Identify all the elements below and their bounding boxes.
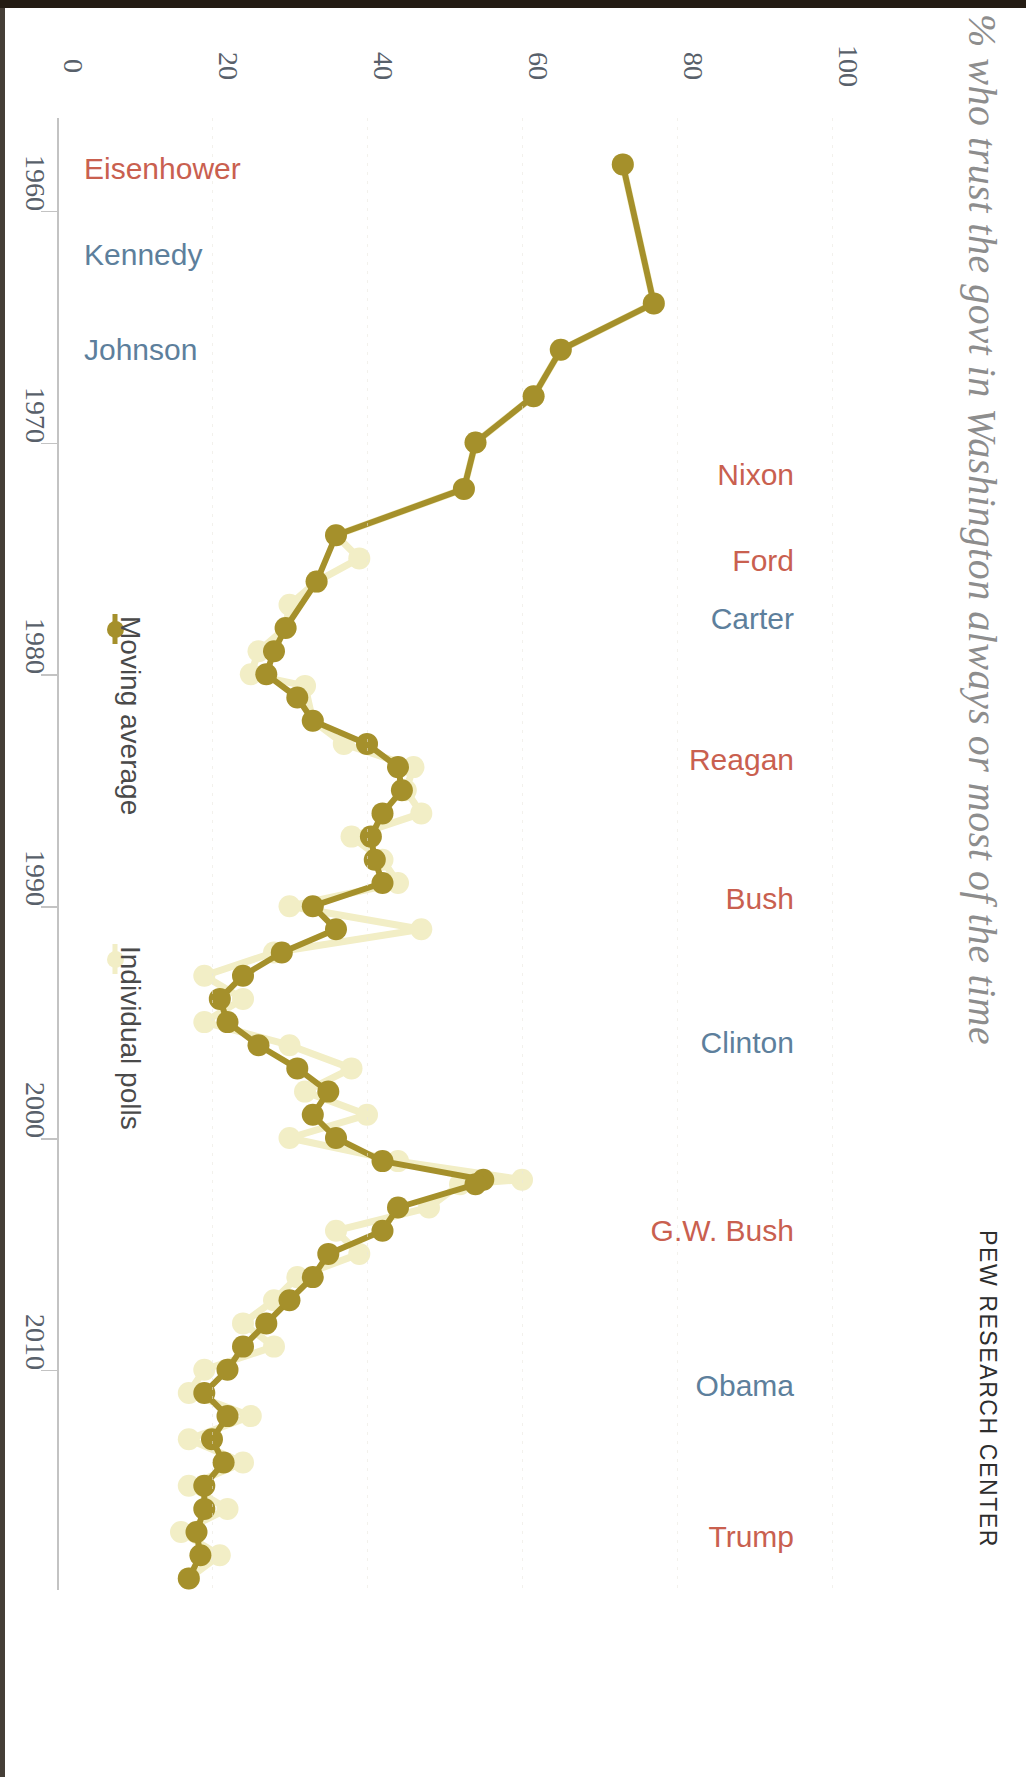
president-label-johnson: Johnson <box>84 333 197 367</box>
percent-axis-label: 0 <box>57 59 89 73</box>
president-label-reagan: Reagan <box>689 743 794 777</box>
percent-axis-label: 20 <box>212 52 244 80</box>
legend-label-moving-average: Moving average <box>114 616 146 815</box>
president-label-carter: Carter <box>711 602 794 636</box>
time-axis-tick <box>41 1370 58 1372</box>
source-text: PEW RESEARCH CENTER <box>974 1230 1001 1548</box>
president-label-ford: Ford <box>732 544 794 578</box>
chart-headline: % who trust the govt in Washington alway… <box>958 10 1020 1190</box>
headline-text: % who trust the govt in Washington alway… <box>959 14 1006 1045</box>
time-axis-label: 1960 <box>19 155 51 211</box>
series-moving-average <box>178 153 665 1589</box>
president-label-bush: Bush <box>726 882 794 916</box>
percent-axis-label: 60 <box>522 52 554 80</box>
percent-axis-label: 100 <box>832 45 864 87</box>
time-axis-label: 2000 <box>19 1082 51 1138</box>
president-label-nixon: Nixon <box>717 458 794 492</box>
president-label-kennedy: Kennedy <box>84 238 202 272</box>
series-individual-polls <box>170 153 665 1589</box>
percent-gridline <box>832 118 833 1590</box>
time-axis-tick <box>41 906 58 908</box>
time-axis-tick <box>41 674 58 676</box>
president-label-clinton: Clinton <box>701 1026 794 1060</box>
president-label-g-w-bush: G.W. Bush <box>651 1214 794 1248</box>
chart-page: 196019701980199020002010020406080100 Eis… <box>0 0 1026 1777</box>
percent-gridline <box>212 118 213 1590</box>
time-axis-label: 1990 <box>19 850 51 906</box>
president-label-eisenhower: Eisenhower <box>84 152 241 186</box>
percent-gridline <box>677 118 678 1590</box>
legend-label-individual-polls: Individual polls <box>114 946 146 1130</box>
time-axis-label: 1980 <box>19 618 51 674</box>
percent-axis-label: 40 <box>367 52 399 80</box>
president-label-trump: Trump <box>708 1520 794 1554</box>
time-axis-tick <box>41 1138 58 1140</box>
percent-axis-label: 80 <box>677 52 709 80</box>
time-axis-label: 1970 <box>19 387 51 443</box>
president-label-obama: Obama <box>696 1369 794 1403</box>
time-axis-label: 2010 <box>19 1314 51 1370</box>
source-credit: PEW RESEARCH CENTER <box>968 1230 1012 1650</box>
percent-gridline <box>522 118 523 1590</box>
percent-gridline <box>367 118 368 1590</box>
chart-legend: Moving average Individual polls <box>92 612 202 1292</box>
